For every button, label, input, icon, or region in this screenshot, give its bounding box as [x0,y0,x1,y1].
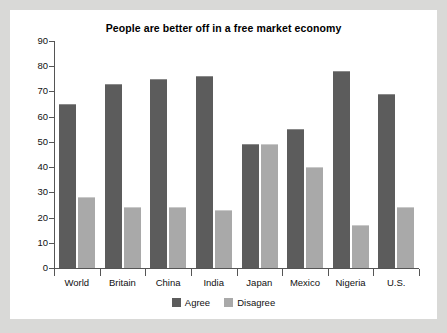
x-tick [419,269,420,276]
bar-agree [105,84,122,268]
y-tick-label: 20 [18,213,48,222]
bar-agree [333,71,350,268]
bar-group [328,41,374,268]
bar-agree [150,79,167,268]
x-tick [237,269,238,276]
x-tick-label: U.S. [364,277,428,288]
x-tick [373,269,374,276]
bar-agree [242,144,259,268]
y-tick-label: 60 [18,112,48,121]
bar-agree [287,129,304,268]
x-tick [54,269,55,276]
bar-group [373,41,419,268]
x-tick [328,269,329,276]
legend-swatch-icon [172,298,181,307]
bar-agree [59,104,76,268]
bar-disagree [352,225,369,268]
bar-disagree [261,144,278,268]
x-tick [100,269,101,276]
bar-disagree [169,207,186,268]
bar-group [100,41,146,268]
legend-item: Agree [172,297,210,308]
y-tick-label: 10 [18,238,48,247]
bar-disagree [215,210,232,268]
bar-disagree [306,167,323,268]
y-tick-label: 80 [18,61,48,70]
bar-agree [196,76,213,268]
y-tick-label: 50 [18,137,48,146]
chart-legend: AgreeDisagree [10,297,437,308]
chart-panel: People are better off in a free market e… [10,10,437,319]
legend-label: Disagree [237,297,275,308]
bar-group [237,41,283,268]
y-tick-label: 70 [18,86,48,95]
x-tick [191,269,192,276]
chart-title: People are better off in a free market e… [10,22,437,34]
legend-swatch-icon [224,298,233,307]
bar-group [145,41,191,268]
bar-group [191,41,237,268]
bar-group [282,41,328,268]
y-tick-label: 30 [18,187,48,196]
y-tick-label: 90 [18,36,48,45]
bar-disagree [124,207,141,268]
bar-disagree [397,207,414,268]
legend-label: Agree [185,297,210,308]
y-tick-label: 0 [18,263,48,272]
screenshot-root: People are better off in a free market e… [0,0,447,333]
bar-disagree [78,197,95,268]
x-tick [145,269,146,276]
bar-agree [378,94,395,268]
x-tick [282,269,283,276]
plot-area: 0102030405060708090 WorldBritainChinaInd… [54,41,419,268]
bar-group [54,41,100,268]
y-tick-label: 40 [18,162,48,171]
legend-item: Disagree [224,297,275,308]
y-axis-labels: 0102030405060708090 [14,41,48,268]
